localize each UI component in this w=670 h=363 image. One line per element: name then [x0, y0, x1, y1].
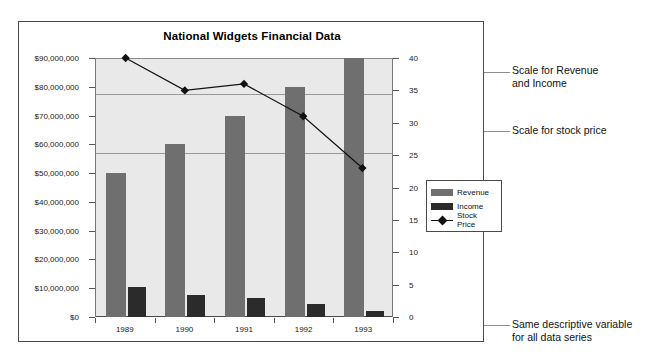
y-axis-right-label: 5 — [409, 280, 413, 289]
plot-area — [95, 58, 393, 317]
y-axis-right-label: 10 — [409, 248, 418, 257]
stock-price-marker-diamond-icon — [121, 54, 129, 62]
leader-line-revenue-income — [484, 72, 510, 73]
y-axis-right-tick — [393, 58, 399, 59]
annotation-scale-revenue-income: Scale for Revenue and Income — [512, 64, 662, 90]
y-axis-right-tick — [393, 155, 399, 156]
x-axis-tick — [393, 318, 394, 323]
y-axis-left-label: $50,000,000 — [35, 169, 80, 178]
y-axis-left-label: $40,000,000 — [35, 197, 80, 206]
y-axis-right-tick — [393, 123, 399, 124]
legend-label-income: Income — [457, 202, 483, 211]
stock-price-marker-diamond-icon — [240, 80, 248, 88]
chart-title: National Widgets Financial Data — [19, 30, 485, 42]
y-axis-right-tick — [393, 285, 399, 286]
stock-price-line — [126, 58, 363, 168]
x-axis-tick — [274, 318, 275, 323]
y-axis-left-label: $10,000,000 — [35, 284, 80, 293]
y-axis-left-label: $80,000,000 — [35, 82, 80, 91]
x-axis-tick — [95, 318, 96, 323]
y-axis-right-label: 40 — [409, 54, 418, 63]
annotation-same-descriptive-variable: Same descriptive variable for all data s… — [512, 318, 668, 344]
y-axis-left-label: $0 — [70, 313, 79, 322]
x-axis: 19891990199119921993 — [95, 318, 393, 340]
x-axis-label: 1993 — [354, 325, 372, 334]
stock-price-marker-diamond-icon — [181, 86, 189, 94]
y-axis-right-tick — [393, 188, 399, 189]
y-axis-right-label: 30 — [409, 118, 418, 127]
y-axis-right-label: 20 — [409, 183, 418, 192]
y-axis-right-tick — [393, 220, 399, 221]
y-axis-left-label: $30,000,000 — [35, 226, 80, 235]
y-axis-right-tick — [393, 252, 399, 253]
y-axis-left: $0$10,000,000$20,000,000$30,000,000$40,0… — [19, 58, 89, 317]
chart-frame: National Widgets Financial Data $0$10,00… — [18, 21, 484, 342]
y-axis-right-label: 0 — [409, 313, 413, 322]
y-axis-left-label: $70,000,000 — [35, 111, 80, 120]
legend-swatch-stock-price-icon — [431, 217, 453, 224]
legend-label-revenue: Revenue — [457, 188, 489, 197]
x-axis-tick — [333, 318, 334, 323]
x-axis-label: 1991 — [235, 325, 253, 334]
x-axis-label: 1990 — [175, 325, 193, 334]
legend-swatch-income-icon — [431, 203, 453, 210]
annotation-scale-stock-price: Scale for stock price — [512, 124, 662, 137]
x-axis-tick — [155, 318, 156, 323]
x-axis-tick — [214, 318, 215, 323]
x-axis-label: 1989 — [116, 325, 134, 334]
leader-line-stock-price — [484, 131, 510, 132]
y-axis-left-label: $20,000,000 — [35, 255, 80, 264]
y-axis-right-label: 15 — [409, 215, 418, 224]
y-axis-right-tick — [393, 90, 399, 91]
leader-line-same-descriptive-variable — [484, 325, 510, 326]
legend-item-stock-price: Stock Price — [431, 213, 497, 227]
legend-label-stock-price: Stock Price — [457, 211, 497, 229]
x-axis-label: 1992 — [295, 325, 313, 334]
y-axis-left-label: $90,000,000 — [35, 54, 80, 63]
y-axis-right-label: 35 — [409, 86, 418, 95]
stock-price-line-series — [96, 58, 392, 317]
chart-legend: Revenue Income Stock Price — [426, 180, 502, 232]
y-axis-left-label: $60,000,000 — [35, 140, 80, 149]
y-axis-right-label: 25 — [409, 151, 418, 160]
legend-swatch-revenue-icon — [431, 189, 453, 196]
legend-item-revenue: Revenue — [431, 185, 497, 199]
